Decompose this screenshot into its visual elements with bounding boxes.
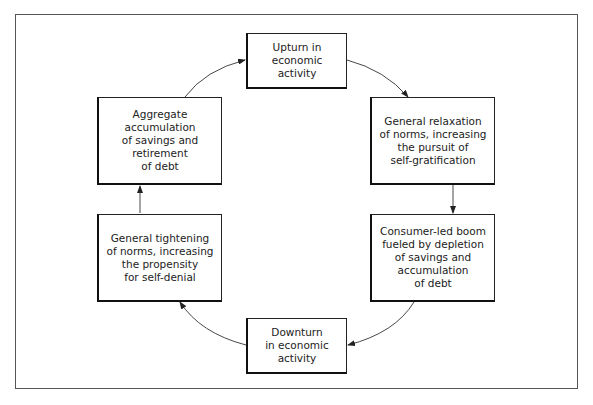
- arrow-aggregate-to-upturn: [185, 60, 245, 97]
- node-aggregate-label: Aggregate accumulation of savings and re…: [122, 108, 198, 173]
- node-relaxation: General relaxation of norms, increasing …: [370, 97, 495, 185]
- node-tightening-label: General tightening of norms, increasing …: [106, 232, 213, 284]
- node-boom-label: Consumer-led boom fueled by depletion of…: [380, 225, 486, 290]
- arrow-upturn-to-relaxation: [347, 60, 408, 97]
- node-upturn: Upturn in economic activity: [246, 33, 347, 89]
- arrow-downturn-to-tightening: [180, 302, 246, 345]
- node-downturn-label: Downturn in economic activity: [265, 326, 329, 365]
- node-tightening: General tightening of norms, increasing …: [97, 214, 222, 302]
- node-aggregate: Aggregate accumulation of savings and re…: [97, 97, 222, 185]
- arrow-boom-to-downturn: [348, 302, 414, 345]
- node-boom: Consumer-led boom fueled by depletion of…: [370, 214, 495, 302]
- node-upturn-label: Upturn in economic activity: [272, 41, 323, 80]
- node-downturn: Downturn in economic activity: [246, 318, 347, 374]
- node-relaxation-label: General relaxation of norms, increasing …: [379, 115, 486, 167]
